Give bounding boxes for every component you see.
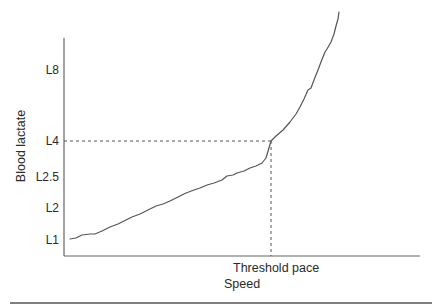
lactate-curve <box>70 12 339 239</box>
y-tick-label: L8 <box>46 63 60 77</box>
y-tick-label: L2.5 <box>36 170 60 184</box>
lactate-threshold-chart: L8L4L2.5L2L1 Blood lactate Threshold pac… <box>0 0 434 307</box>
threshold-pace-label: Threshold pace <box>233 261 319 275</box>
y-tick-label: L4 <box>46 134 60 148</box>
y-tick-label: L1 <box>46 233 60 247</box>
y-tick-label: L2 <box>46 201 60 215</box>
y-tick-labels: L8L4L2.5L2L1 <box>36 63 60 247</box>
y-axis-label: Blood lactate <box>14 110 28 182</box>
x-axis-label: Speed <box>224 277 260 291</box>
